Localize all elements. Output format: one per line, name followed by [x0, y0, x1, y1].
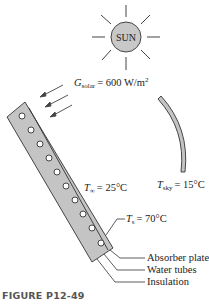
surface-temperature-label: Ts= 70°C [126, 213, 167, 226]
water-tubes-label: Water tubes [147, 264, 197, 275]
sun-label: SUN [116, 32, 136, 43]
sky-arc [158, 96, 186, 172]
sky-temperature-label: Tsky= 15°C [157, 179, 205, 192]
insulation-label: Insulation [147, 276, 190, 287]
ambient-temperature-label: T∞= 25°C [84, 182, 127, 195]
solar-collector-diagram: SUN Gsolar= 600 W/m2 T∞= 25°C [0, 0, 209, 305]
absorber-plate-label: Absorber plate [147, 252, 209, 263]
radiation-arrows [40, 85, 72, 117]
sun-icon: SUN [92, 5, 160, 70]
solar-irradiation-label: Gsolar= 600 W/m2 [74, 76, 149, 90]
figure-caption: FIGURE P12-49 [2, 290, 85, 301]
